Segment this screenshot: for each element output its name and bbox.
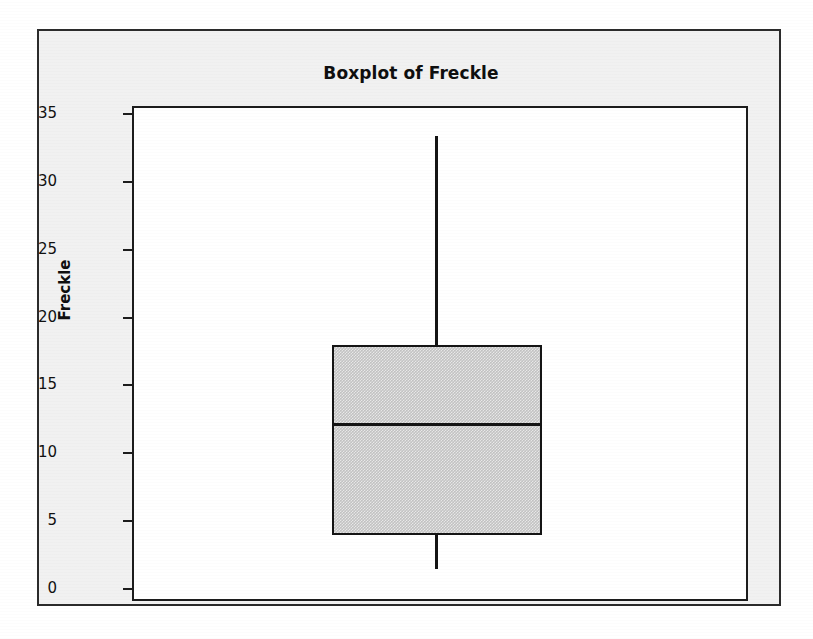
- box-rect: [332, 345, 543, 535]
- chart-title: Boxplot of Freckle: [39, 63, 783, 83]
- y-tick-mark-15: [123, 384, 132, 386]
- median-line: [332, 423, 543, 426]
- y-tick-mark-10: [123, 452, 132, 454]
- y-axis-title: Freckle: [56, 230, 74, 350]
- y-tick-mark-25: [123, 249, 132, 251]
- lower-whisker-line: [435, 535, 438, 569]
- plot-panel: [132, 106, 748, 601]
- boxplot-series-freckle: [134, 108, 746, 599]
- y-tick-mark-30: [123, 181, 132, 183]
- y-tick-label-0: 0: [0, 581, 57, 596]
- y-tick-mark-5: [123, 520, 132, 522]
- y-tick-mark-20: [123, 317, 132, 319]
- y-tick-label-25: 25: [0, 242, 57, 257]
- y-tick-label-5: 5: [0, 513, 57, 528]
- y-tick-label-35: 35: [0, 106, 57, 121]
- y-tick-label-20: 20: [0, 310, 57, 325]
- y-tick-label-15: 15: [0, 377, 57, 392]
- y-tick-mark-0: [123, 588, 132, 590]
- y-tick-mark-35: [123, 113, 132, 115]
- graph-outer-frame: Boxplot of Freckle Freckle 35 30 25 20 1…: [37, 29, 781, 606]
- y-tick-label-30: 30: [0, 174, 57, 189]
- upper-whisker-line: [435, 136, 438, 345]
- y-tick-label-10: 10: [0, 445, 57, 460]
- screenshot-page: Boxplot of Freckle Freckle 35 30 25 20 1…: [0, 0, 813, 639]
